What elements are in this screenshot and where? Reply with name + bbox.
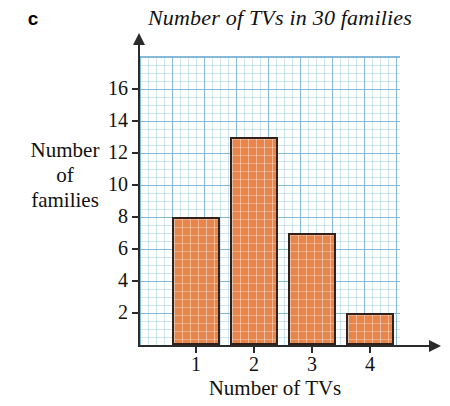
bar-3: [288, 233, 336, 345]
bar-4: [346, 313, 394, 345]
x-axis-line: [138, 345, 431, 347]
x-tick-label: 2: [230, 352, 278, 376]
y-axis-title-line-3: families: [6, 188, 124, 213]
y-tick-label-text: 6: [102, 238, 128, 258]
x-tick-label: 1: [172, 352, 220, 376]
y-tick-label: 4: [92, 270, 128, 290]
y-tick-label: 2: [92, 302, 128, 322]
y-tick-mark: [132, 152, 140, 154]
x-tick-label: 3: [288, 352, 336, 376]
y-tick-mark: [132, 184, 140, 186]
y-tick-mark: [132, 248, 140, 250]
y-tick-mark: [132, 120, 140, 122]
y-tick-mark: [132, 280, 140, 282]
bar-2: [230, 137, 278, 345]
y-tick-mark: [132, 312, 140, 314]
y-axis-title-line-2: of: [6, 163, 124, 188]
y-tick-mark: [132, 88, 140, 90]
y-tick-label-text: 16: [102, 78, 128, 98]
x-axis-arrow-icon: [429, 340, 441, 352]
y-tick-label: 16: [92, 78, 128, 98]
x-axis-title: Number of TVs: [160, 376, 390, 400]
bar-1: [172, 217, 220, 345]
y-axis-title-line-1: Number: [6, 138, 124, 163]
x-tick-label: 4: [346, 352, 394, 376]
y-tick-label-text: 14: [102, 110, 128, 130]
y-tick-mark: [132, 216, 140, 218]
part-label: c: [18, 8, 48, 30]
y-axis-title: Number of families: [6, 138, 124, 213]
y-axis-arrow-icon: [133, 33, 145, 45]
chart-title: Number of TVs in 30 families: [120, 5, 440, 31]
y-tick-label: 14: [92, 110, 128, 130]
chart-figure: c Number of TVs in 30 families 246810121…: [0, 0, 450, 406]
y-tick-label: 6: [92, 238, 128, 258]
y-tick-label-text: 4: [102, 270, 128, 290]
y-tick-label-text: 2: [102, 302, 128, 322]
